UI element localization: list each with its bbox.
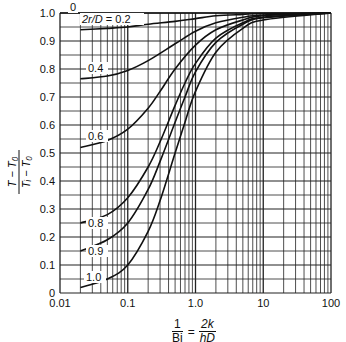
curve-label-0: 0 bbox=[70, 1, 76, 13]
x-tick-label: 100 bbox=[322, 297, 340, 309]
y-tick-label: 0.4 bbox=[40, 175, 55, 187]
y-tick-label: 0.8 bbox=[40, 63, 55, 75]
curve-0.6 bbox=[80, 13, 331, 147]
y-tick-label: 0.9 bbox=[40, 35, 55, 47]
curve-label-0.2: 2r/D = 0.2 bbox=[81, 13, 131, 25]
curve-label-0.4: 0.4 bbox=[88, 62, 103, 74]
x-tick-label: 1.0 bbox=[188, 297, 203, 309]
y-tick-label: 0.3 bbox=[40, 203, 55, 215]
y-title-denominator: Tᵢ − T₀ bbox=[20, 156, 32, 188]
curve-label-0.8: 0.8 bbox=[88, 217, 103, 229]
y-tick-label: 0.6 bbox=[40, 119, 55, 131]
y-title-numerator: T − T₀ bbox=[6, 156, 18, 187]
x-tick-label: 10 bbox=[257, 297, 269, 309]
x-tick-label: 0.01 bbox=[49, 297, 70, 309]
curve-0.8 bbox=[80, 13, 331, 223]
curve-label-0.9: 0.9 bbox=[88, 245, 103, 257]
x-title-left-fraction: 1 Bi bbox=[170, 318, 185, 342]
y-tick-label: 0.7 bbox=[40, 91, 55, 103]
x-title-right-num: 2k bbox=[199, 318, 216, 332]
y-tick-label: 0.5 bbox=[40, 147, 55, 159]
x-title-right-fraction: 2k hD bbox=[198, 318, 217, 342]
x-title-equals: = bbox=[188, 325, 195, 339]
y-axis-title: T − T₀ Tᵢ − T₀ bbox=[4, 132, 34, 212]
x-tick-label: 0.1 bbox=[120, 297, 135, 309]
x-title-left-num: 1 bbox=[172, 318, 183, 332]
y-tick-label: 1.0 bbox=[40, 7, 55, 19]
x-title-right-den: hD bbox=[198, 332, 217, 342]
axis-ticks: 00.10.20.30.40.50.60.70.80.91.00.010.11.… bbox=[40, 7, 340, 309]
y-tick-label: 0.1 bbox=[40, 259, 55, 271]
curve-label-0.6: 0.6 bbox=[88, 130, 103, 142]
x-axis-title: 1 Bi = 2k hD bbox=[170, 318, 217, 342]
chart-canvas: 00.10.20.30.40.50.60.70.80.91.00.010.11.… bbox=[0, 0, 346, 342]
x-title-left-den: Bi bbox=[170, 332, 185, 342]
curve-label-1.0: 1.0 bbox=[86, 271, 101, 283]
y-tick-label: 0.2 bbox=[40, 231, 55, 243]
